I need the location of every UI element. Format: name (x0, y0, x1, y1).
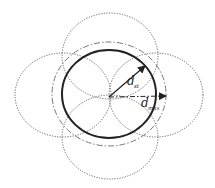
inner-radius-subscript: st (134, 83, 140, 89)
outer-radius-subscript: max (148, 105, 160, 111)
diagram-canvas: d st d max (0, 0, 215, 188)
outer-radius-arrow (109, 96, 166, 97)
coverage-diagram: d st d max (0, 0, 215, 188)
